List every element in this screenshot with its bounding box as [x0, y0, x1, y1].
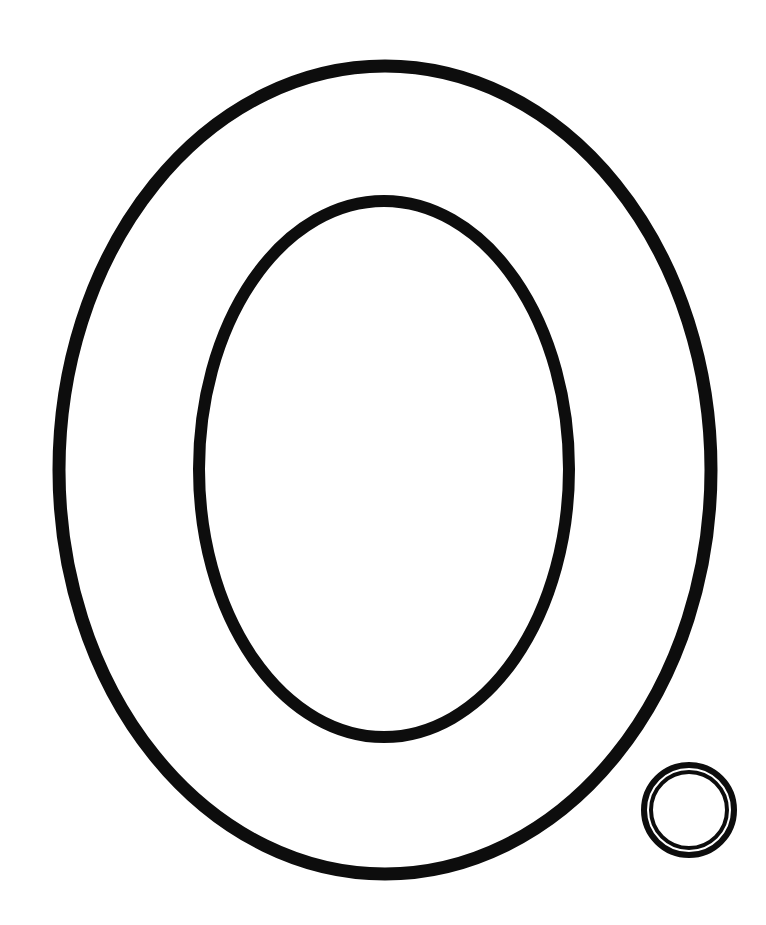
letter-o-drawing: [0, 0, 766, 925]
coloring-page: Letter O coloring page: [0, 0, 766, 925]
